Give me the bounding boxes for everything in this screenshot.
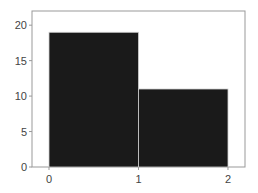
histogram-chart: 05101520 012 (0, 0, 258, 193)
y-tick-label: 15 (15, 55, 27, 67)
y-tick-label: 10 (15, 90, 27, 102)
y-axis: 05101520 (15, 19, 32, 173)
histogram-bar-0 (49, 32, 138, 167)
y-tick-label: 20 (15, 19, 27, 31)
x-axis: 012 (46, 167, 231, 185)
x-tick-label: 0 (46, 173, 52, 185)
y-tick-label: 0 (21, 161, 27, 173)
x-tick-label: 1 (135, 173, 141, 185)
y-tick-label: 5 (21, 126, 27, 138)
histogram-bar-1 (139, 89, 228, 167)
x-tick-label: 2 (225, 173, 231, 185)
